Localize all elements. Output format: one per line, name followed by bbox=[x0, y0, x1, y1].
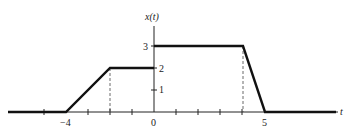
x-axis-label: t bbox=[340, 106, 343, 117]
y-tick-label-1: 1 bbox=[159, 84, 164, 95]
y-axis-label: x(t) bbox=[144, 11, 160, 23]
signal-plot: x(t) t −4 0 5 1 2 3 bbox=[0, 0, 348, 136]
x-tick-label-5: 5 bbox=[262, 117, 267, 128]
y-tick-label-3: 3 bbox=[143, 41, 148, 52]
signal-line bbox=[8, 68, 154, 112]
signal-line-upper bbox=[154, 46, 336, 112]
x-tick-label-0: 0 bbox=[151, 117, 156, 128]
y-tick-label-2: 2 bbox=[159, 63, 164, 74]
x-tick-label-neg4: −4 bbox=[60, 117, 71, 128]
